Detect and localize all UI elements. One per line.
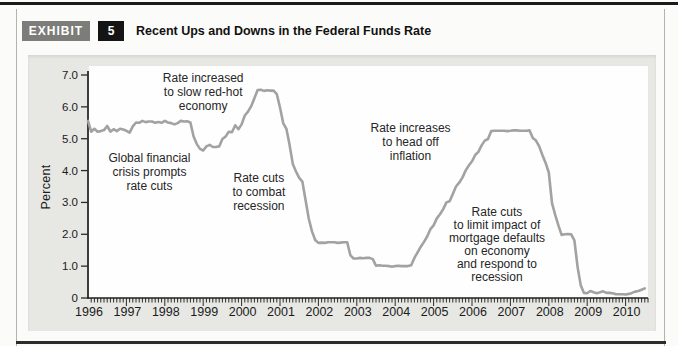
x-tick-label: 2010: [613, 305, 641, 319]
x-tick-label: 2007: [497, 305, 525, 319]
y-tick-label: 1.0: [62, 260, 78, 272]
x-tick-label: 2005: [421, 305, 449, 319]
y-tick-label: 7.0: [62, 69, 78, 81]
y-axis-title: Percent: [39, 164, 53, 209]
y-tick-label: 6.0: [62, 101, 78, 113]
fed-funds-rate-chart: 1996199719981999200020012002200320042005…: [28, 55, 656, 331]
y-tick-label: 2.0: [62, 228, 78, 240]
exhibit-top-border: [0, 2, 678, 5]
exhibit-header: EXHIBIT 5 Recent Ups and Downs in the Fe…: [22, 21, 431, 41]
exhibit-badge: EXHIBIT: [22, 21, 90, 41]
y-tick-label: 4.0: [62, 165, 78, 177]
x-tick-label: 2002: [305, 305, 333, 319]
x-tick-label: 1998: [152, 305, 180, 319]
x-tick-label: 2001: [267, 305, 295, 319]
y-tick-label: 3.0: [62, 196, 78, 208]
x-tick-label: 2003: [344, 305, 372, 319]
chart-panel: 1996199719981999200020012002200320042005…: [28, 55, 656, 331]
exhibit-title: Recent Ups and Downs in the Federal Fund…: [136, 24, 431, 38]
exhibit-left-border: [16, 9, 17, 346]
plot-area: [89, 66, 648, 298]
exhibit-right-border: [664, 9, 665, 346]
x-tick-label: 1999: [190, 305, 218, 319]
x-tick-label: 2009: [574, 305, 602, 319]
y-tick-label: 5.0: [62, 133, 78, 145]
exhibit-number-badge: 5: [98, 21, 124, 41]
x-tick-label: 1997: [113, 305, 141, 319]
annotation-rate-cuts-combat-recession: Rate cutsto combatrecession: [233, 171, 286, 213]
x-tick-label: 2000: [229, 305, 257, 319]
x-tick-label: 1996: [75, 305, 103, 319]
x-tick-label: 2006: [459, 305, 487, 319]
x-tick-label: 2008: [536, 305, 564, 319]
exhibit-bottom-border: [16, 341, 666, 344]
y-tick-label: 0: [72, 292, 78, 304]
x-tick-label: 2004: [382, 305, 410, 319]
